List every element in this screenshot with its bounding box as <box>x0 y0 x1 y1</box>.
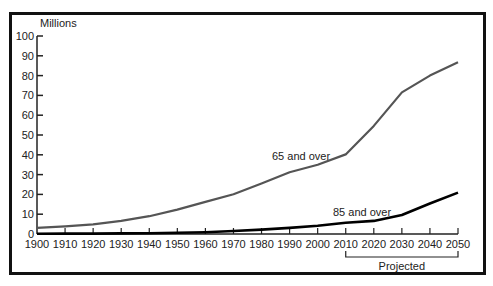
x-tick-label: 2030 <box>390 238 414 250</box>
series-lines <box>37 62 458 234</box>
x-tick-label: 1980 <box>249 238 273 250</box>
projected-label: Projected <box>379 260 425 272</box>
y-tick-label: 100 <box>16 30 34 42</box>
x-tick-label: 1940 <box>137 238 161 250</box>
series-line-85-and-over <box>37 193 458 234</box>
y-tick-label: 80 <box>22 70 34 82</box>
x-tick-label: 1930 <box>109 238 133 250</box>
x-tick-label: 1920 <box>81 238 105 250</box>
x-tick-label: 2020 <box>362 238 386 250</box>
projected-bracket: Projected <box>346 251 458 272</box>
y-axis: 0102030405060708090100 <box>16 30 43 240</box>
y-tick-label: 60 <box>22 109 34 121</box>
y-tick-label: 40 <box>22 149 34 161</box>
y-tick-label: 70 <box>22 89 34 101</box>
x-tick-label: 1990 <box>277 238 301 250</box>
projected-bracket-line <box>346 251 458 257</box>
series-label-65-and-over: 65 and over <box>272 150 330 162</box>
x-tick-label: 2040 <box>418 238 442 250</box>
x-tick-label: 2000 <box>305 238 329 250</box>
y-tick-label: 90 <box>22 50 34 62</box>
line-chart: Millions 0102030405060708090100 19001910… <box>0 0 493 286</box>
x-tick-label: 1970 <box>221 238 245 250</box>
series-label-85-and-over: 85 and over <box>333 206 391 218</box>
x-tick-label: 2050 <box>446 238 470 250</box>
x-tick-label: 2010 <box>333 238 357 250</box>
series-line-65-and-over <box>37 62 458 228</box>
y-tick-label: 10 <box>22 208 34 220</box>
y-tick-label: 30 <box>22 169 34 181</box>
x-tick-label: 1950 <box>165 238 189 250</box>
y-axis-label: Millions <box>40 17 77 29</box>
y-tick-label: 50 <box>22 129 34 141</box>
x-tick-label: 1910 <box>53 238 77 250</box>
x-tick-label: 1960 <box>193 238 217 250</box>
x-tick-label: 1900 <box>25 238 49 250</box>
y-tick-label: 20 <box>22 188 34 200</box>
